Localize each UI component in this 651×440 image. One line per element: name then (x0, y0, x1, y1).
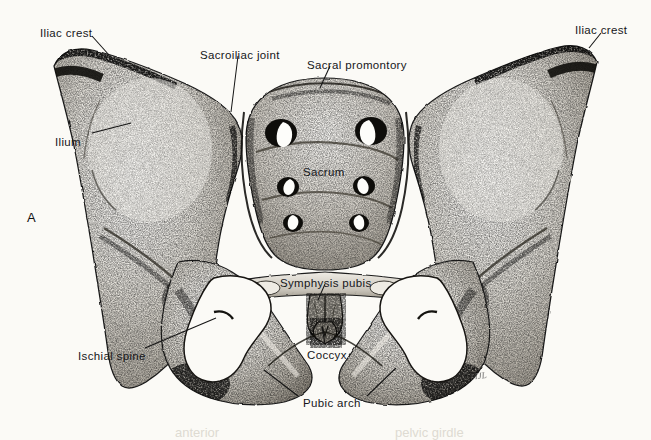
label-symphysis-pubis: Symphysis pubis (280, 278, 372, 290)
label-ischial-spine: Ischial spine (78, 351, 146, 363)
label-sacroiliac-joint: Sacroiliac joint (200, 50, 280, 62)
label-iliac-crest-left: Iliac crest (40, 28, 92, 40)
label-iliac-crest-right: Iliac crest (575, 25, 627, 37)
bleed-right: pelvic girdle (395, 425, 464, 440)
label-pubic-arch: Pubic arch (303, 398, 361, 410)
pelvis-figure: Iliac crestIliac crestSacroiliac jointSa… (0, 0, 651, 440)
label-sacral-promontory: Sacral promontory (307, 60, 407, 72)
label-coccyx: Coccyx (307, 350, 347, 362)
label-sacrum: Sacrum (303, 167, 345, 179)
bleed-left: anterior (175, 425, 219, 440)
label-ilium: Ilium (55, 137, 81, 149)
panel-marker-a: A (27, 210, 36, 225)
